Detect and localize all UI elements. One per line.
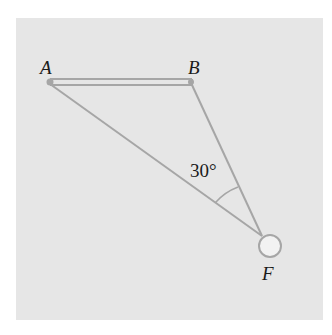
- triangle-diagram: [0, 0, 332, 335]
- mass-circle: [259, 235, 281, 257]
- label-b: B: [188, 58, 200, 77]
- label-f: F: [262, 264, 274, 283]
- angle-label: 30°: [190, 161, 217, 180]
- rod-ab: [47, 79, 195, 86]
- angle-arc: [216, 187, 239, 203]
- string-af: [50, 84, 262, 236]
- label-a: A: [40, 58, 52, 77]
